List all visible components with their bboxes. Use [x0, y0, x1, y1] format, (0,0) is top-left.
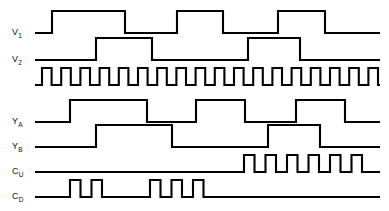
trace-cd: [35, 180, 380, 197]
trace-v1: [35, 11, 380, 33]
trace-yb: [35, 125, 380, 147]
trace-clk: [35, 68, 380, 85]
waveform-traces: [0, 0, 389, 211]
trace-v2: [35, 38, 380, 60]
trace-cu: [35, 155, 380, 172]
timing-diagram: V1 V2 YA YB CU CD: [0, 0, 389, 211]
trace-ya: [35, 100, 380, 122]
